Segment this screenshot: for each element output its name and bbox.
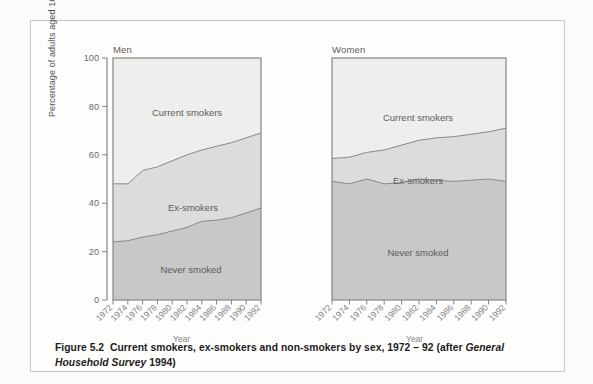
- x-tick-label: 1988: [452, 302, 473, 321]
- women-chart-svg: 1972197419761978198019821984198619881990…: [306, 21, 556, 321]
- y-tick-label: 80: [89, 102, 99, 112]
- women-x-tick-labels: 1972197419761978198019821984198619881990…: [313, 302, 508, 321]
- x-tick-label: 1992: [242, 302, 263, 321]
- caption-suffix: 1994): [146, 357, 176, 368]
- x-tick-label: 1980: [382, 302, 403, 321]
- x-tick-label: 1976: [348, 302, 369, 321]
- x-tick-label: 1974: [330, 302, 351, 321]
- y-tick-label: 60: [89, 150, 99, 160]
- men-y-ticks: 020406080100: [84, 53, 107, 305]
- figure-caption: Figure 5.2 Current smokers, ex-smokers a…: [55, 341, 550, 370]
- y-tick-label: 0: [94, 295, 99, 305]
- series-label-current-smokers-men: Current smokers: [152, 107, 222, 118]
- area-never-smoked-women: [332, 179, 506, 300]
- y-tick-label: 20: [89, 247, 99, 257]
- x-tick-label: 1978: [365, 302, 386, 321]
- men-chart-svg: 020406080100 197219741976197819801982198…: [51, 21, 301, 321]
- caption-main-text: Current smokers, ex-smokers and non-smok…: [110, 342, 465, 353]
- series-label-ex-smokers-men: Ex-smokers: [168, 202, 218, 213]
- series-label-never-smoked-men: Never smoked: [160, 264, 221, 275]
- series-label-ex-smokers-women: Ex-smokers: [393, 175, 443, 186]
- figure-container: Men Percentage of adults aged 16 or over: [30, 20, 565, 372]
- men-x-tick-labels: 1972197419761978198019821984198619881990…: [94, 302, 263, 321]
- x-tick-label: 1992: [487, 302, 508, 321]
- x-tick-label: 1990: [469, 302, 490, 321]
- x-tick-label: 1972: [313, 302, 334, 321]
- series-label-never-smoked-women: Never smoked: [387, 247, 448, 258]
- x-tick-label: 1986: [435, 302, 456, 321]
- caption-figure-number: Figure 5.2: [55, 342, 104, 353]
- x-tick-label: 1982: [400, 302, 421, 321]
- y-tick-label: 100: [84, 53, 99, 63]
- women-x-ticks: [332, 300, 506, 305]
- x-tick-label: 1984: [417, 302, 438, 321]
- series-label-current-smokers-women: Current smokers: [383, 112, 453, 123]
- y-tick-label: 40: [89, 198, 99, 208]
